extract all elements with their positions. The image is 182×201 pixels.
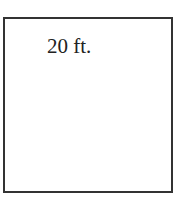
side-length-label: 20 ft. bbox=[47, 36, 91, 57]
